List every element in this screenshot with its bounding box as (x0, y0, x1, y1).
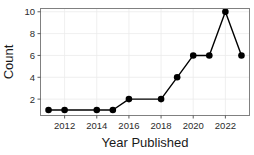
data-point-marker (61, 107, 68, 114)
x-axis-title: Year Published (102, 135, 189, 150)
data-point-marker (158, 96, 165, 103)
data-point-marker (93, 107, 100, 114)
data-point-marker (190, 52, 197, 59)
y-axis-tick-label: 2 (30, 94, 35, 105)
y-axis-tick-label: 8 (30, 28, 35, 39)
x-axis-tick-label: 2014 (86, 120, 107, 131)
x-axis-tick-label: 2018 (151, 120, 172, 131)
data-point-marker (110, 107, 117, 114)
data-point-marker (174, 74, 181, 81)
y-axis-title: Count (1, 44, 16, 79)
x-axis-tick-label: 2022 (215, 120, 236, 131)
x-axis-tick-label: 2012 (54, 120, 75, 131)
data-point-marker (126, 96, 133, 103)
data-point-marker (238, 52, 245, 59)
y-axis-tick-label: 10 (24, 6, 35, 17)
data-point-marker (45, 107, 52, 114)
x-axis-tick-label: 2016 (118, 120, 139, 131)
data-point-marker (222, 8, 229, 15)
line-chart: 246810201220142016201820202022CountYear … (0, 0, 254, 155)
y-axis-tick-label: 4 (30, 72, 35, 83)
data-point-marker (206, 52, 213, 59)
chart-container: 246810201220142016201820202022CountYear … (0, 0, 254, 155)
y-axis-tick-label: 6 (30, 50, 35, 61)
x-axis-tick-label: 2020 (183, 120, 204, 131)
